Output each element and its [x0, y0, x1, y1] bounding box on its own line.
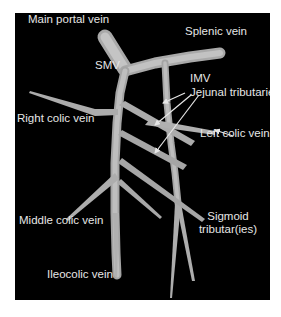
- label-jejunal-tributaries: Jejunal tributaries: [190, 86, 270, 99]
- label-right-colic-vein: Right colic vein: [17, 112, 94, 125]
- label-ileocolic-vein: Ileocolic vein: [47, 268, 113, 281]
- label-sigmoid-line2: tributar(ies): [193, 223, 263, 236]
- label-left-colic-vein: Left colic vein: [200, 127, 270, 140]
- splenic-vein-vessel: [125, 53, 220, 71]
- vessel-tree-illustration: [15, 13, 270, 300]
- vein-reconstruction-figure: Main portal vein Splenic vein SMV IMV Je…: [15, 13, 270, 300]
- jejunal-arrow-2: [155, 95, 191, 125]
- label-sigmoid-line1: Sigmoid: [193, 210, 263, 223]
- label-splenic-vein: Splenic vein: [185, 25, 247, 38]
- label-main-portal-vein: Main portal vein: [28, 13, 109, 26]
- label-sigmoid-tributaries: Sigmoid tributar(ies): [193, 210, 263, 236]
- label-smv: SMV: [95, 59, 120, 72]
- sigmoid-tributaries-vessel: [170, 203, 195, 298]
- label-middle-colic-vein: Middle colic vein: [19, 214, 103, 227]
- label-imv: IMV: [190, 72, 210, 85]
